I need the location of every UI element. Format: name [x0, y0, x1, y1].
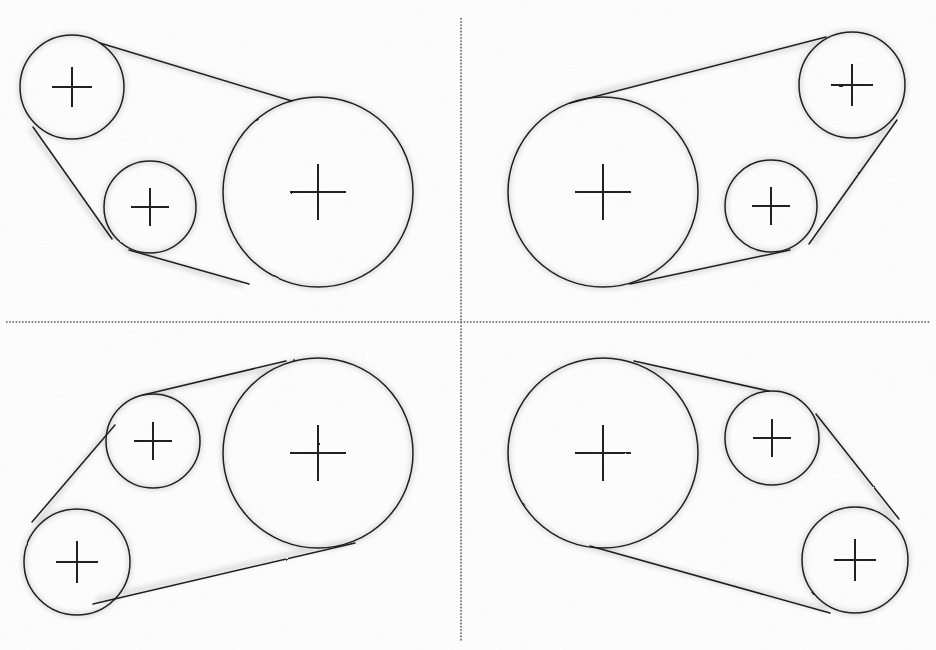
drawing-sheet	[0, 0, 936, 650]
scan-grain-overlay	[0, 0, 936, 650]
belt-drive-diagram	[0, 0, 936, 650]
